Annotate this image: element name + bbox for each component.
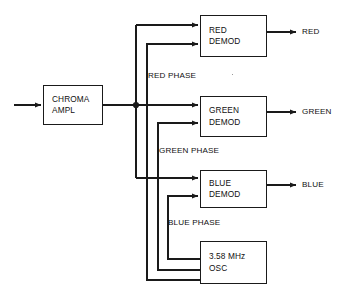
block-chroma-ampl[interactable]: CHROMA AMPL — [43, 85, 103, 125]
block-diagram-canvas: CHROMA AMPL RED DEMOD GREEN DEMOD BLUE D… — [0, 0, 344, 297]
block-green-demod-line2: DEMOD — [209, 117, 240, 128]
chroma-junction-dot — [133, 102, 139, 108]
block-chroma-ampl-line1: CHROMA — [52, 94, 89, 105]
label-red-phase: RED PHASE — [148, 71, 196, 80]
block-chroma-ampl-line2: AMPL — [52, 105, 75, 116]
block-blue-demod-line2: DEMOD — [209, 189, 240, 200]
block-oscillator-line1: 3.58 MHz — [209, 251, 245, 262]
block-green-demod-line1: GREEN — [209, 105, 239, 116]
block-oscillator[interactable]: 3.58 MHz OSC — [200, 241, 267, 284]
wire-blue-phase — [168, 196, 200, 259]
block-red-demod-line2: DEMOD — [209, 36, 240, 47]
block-blue-demod[interactable]: BLUE DEMOD — [200, 170, 267, 208]
block-blue-demod-line1: BLUE — [209, 178, 231, 189]
label-green-output: GREEN — [302, 107, 332, 116]
block-oscillator-line2: OSC — [209, 263, 227, 274]
label-green-phase: GREEN PHASE — [159, 146, 219, 155]
label-blue-phase: BLUE PHASE — [168, 218, 220, 227]
block-red-demod-line1: RED — [209, 25, 227, 36]
label-red-output: RED — [302, 27, 320, 36]
block-red-demod[interactable]: RED DEMOD — [200, 15, 267, 57]
label-blue-output: BLUE — [302, 180, 324, 189]
block-green-demod[interactable]: GREEN DEMOD — [200, 96, 267, 137]
